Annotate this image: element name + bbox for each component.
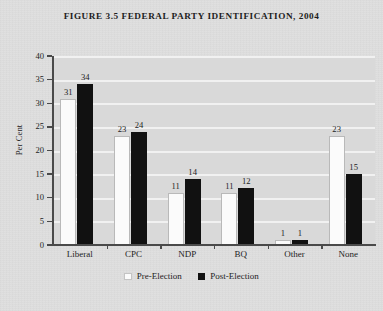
y-tick-mark: [47, 103, 52, 104]
y-tick-label: 25: [24, 122, 44, 131]
bar-value-label: 15: [340, 163, 368, 172]
bar-value-label: 14: [179, 168, 207, 177]
y-tick-mark: [47, 197, 52, 198]
bar-ndp-pre: [168, 193, 184, 245]
bar-value-label: 12: [232, 177, 260, 186]
bar-bq-pre: [221, 193, 237, 245]
y-tick-label: 0: [24, 241, 44, 250]
y-tick-mark: [47, 126, 52, 127]
x-tick-mark: [160, 245, 161, 249]
dark-swatch-icon: [198, 273, 206, 281]
x-tick-mark: [107, 245, 108, 249]
legend-label: Pre-Election: [137, 272, 182, 281]
y-tick-mark: [47, 221, 52, 222]
gridline: [53, 56, 375, 58]
y-tick-label: 15: [24, 170, 44, 179]
y-tick-label: 30: [24, 99, 44, 108]
y-tick-label: 5: [24, 217, 44, 226]
gridline: [53, 80, 375, 82]
y-tick-mark: [47, 79, 52, 80]
bar-cpc-post: [131, 132, 147, 245]
bar-none-post: [346, 174, 362, 245]
bar-liberal-post: [77, 84, 93, 245]
y-tick-label: 10: [24, 193, 44, 202]
bar-value-label: 34: [71, 73, 99, 82]
y-axis-line: [52, 56, 54, 245]
bar-value-label: 23: [323, 125, 351, 134]
bar-value-label: 1: [286, 229, 314, 238]
legend-item-pre-election: Pre-Election: [124, 272, 181, 281]
plot-area: [53, 56, 375, 245]
legend-item-post-election: Post-Election: [198, 272, 259, 281]
legend-label: Post-Election: [210, 272, 259, 281]
y-tick-label: 35: [24, 75, 44, 84]
bar-cpc-pre: [114, 136, 130, 245]
bar-value-label: 31: [54, 88, 82, 97]
y-tick-mark: [47, 150, 52, 151]
x-category-label-none: None: [309, 250, 383, 259]
bar-liberal-pre: [60, 99, 76, 245]
chart-figure: 0510152025303540 Per Cent LiberalCPCNDPB…: [0, 0, 383, 311]
x-tick-mark: [321, 245, 322, 249]
gridline: [53, 221, 375, 223]
y-axis-title: Per Cent: [14, 105, 24, 175]
y-tick-mark: [47, 244, 52, 245]
y-tick-mark: [47, 173, 52, 174]
y-tick-label: 20: [24, 146, 44, 155]
bar-none-pre: [329, 136, 345, 245]
y-tick-mark: [47, 55, 52, 56]
x-tick-mark: [214, 245, 215, 249]
gridline: [53, 198, 375, 200]
bar-value-label: 24: [125, 121, 153, 130]
light-swatch-icon: [124, 273, 132, 281]
chart-legend: Pre-ElectionPost-Election: [0, 272, 383, 281]
gridline: [53, 151, 375, 153]
gridline: [53, 174, 375, 176]
y-tick-label: 40: [24, 52, 44, 61]
gridline: [53, 103, 375, 105]
x-tick-mark: [268, 245, 269, 249]
bar-value-label: 11: [162, 182, 190, 191]
bar-bq-post: [238, 188, 254, 245]
